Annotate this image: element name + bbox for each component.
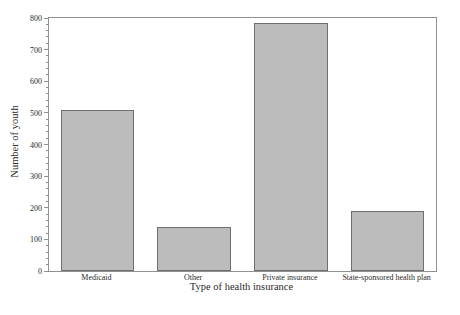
y-minor-tick	[46, 226, 48, 227]
y-minor-tick	[46, 252, 48, 253]
y-minor-tick	[46, 258, 48, 259]
y-minor-tick	[46, 138, 48, 139]
y-minor-tick	[46, 106, 48, 107]
y-tick-label: 700	[30, 45, 42, 54]
x-axis-title: Type of health insurance	[48, 281, 435, 292]
bar-state-sponsored-health-plan	[351, 211, 425, 271]
y-minor-tick	[46, 119, 48, 120]
y-major-tick	[44, 49, 48, 50]
y-major-tick	[44, 176, 48, 177]
y-minor-tick	[46, 201, 48, 202]
y-minor-tick	[46, 220, 48, 221]
y-minor-tick	[46, 131, 48, 132]
x-category-label: Private insurance	[262, 273, 317, 282]
y-minor-tick	[46, 195, 48, 196]
y-tick-label: 500	[30, 108, 42, 117]
y-minor-tick	[46, 163, 48, 164]
y-minor-tick	[46, 74, 48, 75]
y-minor-tick	[46, 30, 48, 31]
y-minor-tick	[46, 24, 48, 25]
y-major-tick	[44, 207, 48, 208]
bar-other	[157, 227, 231, 271]
y-minor-tick	[46, 55, 48, 56]
y-minor-tick	[46, 264, 48, 265]
bar-private-insurance	[254, 23, 328, 271]
y-minor-tick	[46, 43, 48, 44]
plot-area: 0100200300400500600700800	[48, 17, 437, 272]
y-minor-tick	[46, 125, 48, 126]
y-minor-tick	[46, 93, 48, 94]
y-minor-tick	[46, 245, 48, 246]
y-minor-tick	[46, 68, 48, 69]
bar-medicaid	[61, 110, 135, 271]
y-minor-tick	[46, 233, 48, 234]
y-tick-label: 800	[30, 14, 42, 23]
y-tick-label: 400	[30, 140, 42, 149]
y-major-tick	[44, 112, 48, 113]
y-minor-tick	[46, 182, 48, 183]
y-tick-label: 300	[30, 172, 42, 181]
y-minor-tick	[46, 100, 48, 101]
y-tick-label: 100	[30, 235, 42, 244]
x-category-label: State-sponsored health plan	[342, 273, 430, 282]
y-major-tick	[44, 81, 48, 82]
y-minor-tick	[46, 169, 48, 170]
y-major-tick	[44, 271, 48, 272]
y-major-tick	[44, 239, 48, 240]
y-minor-tick	[46, 150, 48, 151]
y-minor-tick	[46, 214, 48, 215]
y-major-tick	[44, 144, 48, 145]
bar-chart-figure: 0100200300400500600700800 Number of yout…	[0, 0, 460, 315]
y-major-tick	[44, 18, 48, 19]
y-minor-tick	[46, 87, 48, 88]
y-minor-tick	[46, 36, 48, 37]
y-tick-label: 0	[38, 267, 42, 276]
y-minor-tick	[46, 188, 48, 189]
y-axis-title: Number of youth	[9, 87, 20, 197]
x-category-label: Medicaid	[81, 273, 111, 282]
y-tick-label: 600	[30, 77, 42, 86]
y-minor-tick	[46, 62, 48, 63]
y-minor-tick	[46, 157, 48, 158]
x-category-label: Other	[184, 273, 202, 282]
y-tick-label: 200	[30, 203, 42, 212]
